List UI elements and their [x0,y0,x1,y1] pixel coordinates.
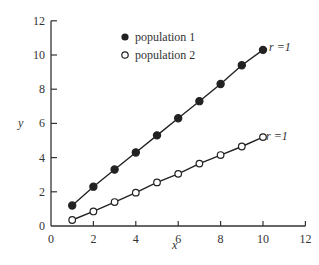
data-point-open [90,208,97,215]
legend-label-population-1: population 1 [135,30,195,44]
legend-label-population-2: population 2 [135,48,195,62]
x-tick-label: 0 [48,232,54,246]
data-point-open [69,217,76,224]
data-point-filled [90,183,97,190]
y-tick-label: 2 [39,185,45,199]
data-point-filled [238,62,245,69]
data-point-open [217,152,224,159]
data-point-filled [69,202,76,209]
x-tick-label: 4 [133,232,139,246]
y-tick-label: 6 [39,116,45,130]
data-point-filled [175,115,182,122]
x-axis-label: x [171,238,178,252]
data-point-filled [217,80,224,87]
data-point-filled [111,166,118,173]
data-point-open [111,199,118,206]
series-line-1 [72,50,263,206]
data-point-filled [259,46,266,53]
data-point-open [239,143,246,150]
x-tick-label: 12 [299,232,311,246]
data-point-open [196,160,203,167]
y-axis-label: y [17,116,24,130]
legend-marker-open [122,52,128,58]
x-tick-label: 10 [257,232,269,246]
x-tick-label: 8 [218,232,224,246]
y-tick-label: 0 [39,219,45,233]
series-line-2 [72,137,263,220]
y-tick-label: 4 [39,151,45,165]
data-point-filled [196,98,203,105]
y-tick-label: 10 [33,48,45,62]
series-group [69,46,267,223]
annotation-population-1: r =1 [269,40,291,54]
x-tick-label: 2 [90,232,96,246]
annotation-population-2: r =1 [266,129,288,143]
data-point-filled [153,132,160,139]
y-tick-label: 12 [33,14,45,28]
chart: 024681012024681012 population 1 populati… [0,0,319,265]
y-tick-label: 8 [39,82,45,96]
legend-marker-filled [121,33,128,40]
data-point-open [133,189,140,196]
data-point-open [154,179,161,186]
data-point-filled [132,149,139,156]
data-point-open [175,171,182,178]
legend: population 1 population 2 [121,30,195,62]
